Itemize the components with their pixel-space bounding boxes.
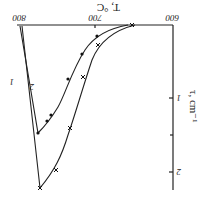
x-axis-label: T, °C	[97, 2, 120, 14]
axes	[17, 25, 173, 190]
curves	[20, 25, 135, 188]
chart: 600 700 800 1 2 1 2 T, °C τ, cm⁻¹	[0, 0, 212, 199]
tick-800: 800	[12, 13, 26, 23]
chart-svg: 600 700 800 1 2 1 2 T, °C τ, cm⁻¹	[0, 0, 212, 199]
y-axis-label: τ, cm⁻¹	[188, 90, 200, 123]
tick-y2: 2	[176, 167, 181, 177]
tick-600: 600	[165, 13, 179, 23]
curve-label-2: 2	[29, 82, 34, 92]
curve-label-1: 1	[10, 77, 15, 87]
tick-y1: 1	[177, 93, 182, 103]
curve-1	[22, 25, 135, 188]
